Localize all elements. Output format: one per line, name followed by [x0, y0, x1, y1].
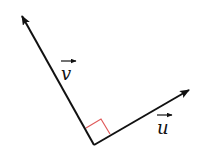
label-v: v	[61, 61, 76, 84]
right-angle-marker	[86, 119, 110, 134]
label-u: u	[157, 115, 172, 138]
label-v-text: v	[61, 63, 71, 84]
vector-diagram: v u	[0, 0, 200, 150]
vector-v	[22, 16, 94, 145]
vector-u	[94, 90, 189, 145]
label-u-text: u	[157, 117, 169, 138]
